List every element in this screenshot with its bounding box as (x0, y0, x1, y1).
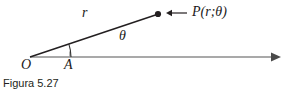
origin-label: O (21, 58, 31, 72)
polar-coordinate-figure: r θ P(r;θ) O A Figura 5.27 (0, 0, 286, 97)
figure-caption: Figura 5.27 (3, 78, 59, 89)
radius-ray-line (30, 15, 157, 58)
point-p-label: P(r;θ) (192, 5, 227, 19)
point-p-dot (155, 11, 161, 17)
angle-label: θ (119, 29, 126, 43)
polar-axis-arrowhead (271, 52, 281, 61)
radius-label: r (82, 6, 87, 20)
pointer-arrow-group (166, 10, 187, 16)
point-a-label: A (64, 58, 73, 72)
pointer-arrow-head (166, 10, 172, 16)
